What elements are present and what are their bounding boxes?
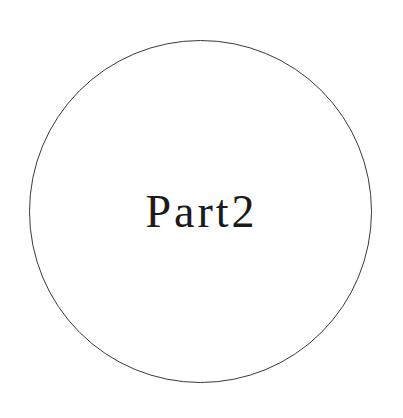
part-title: Part2 [0,186,403,238]
